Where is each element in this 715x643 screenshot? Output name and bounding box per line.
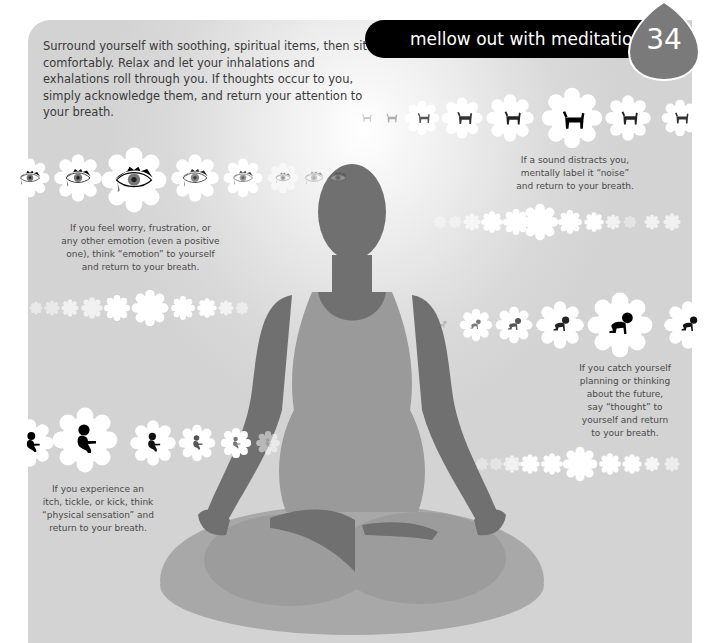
caption-thought: If you catch yourself planning or thinki… (570, 362, 680, 440)
page-title: mellow out with meditation (410, 29, 643, 49)
caption-emotion: If you feel worry, frustration, or any o… (58, 222, 223, 274)
caption-sensation: If you experience an itch, tickle, or ki… (38, 483, 158, 535)
caption-noise: If a sound distracts you, mentally label… (510, 154, 640, 193)
page-number: 34 (625, 20, 703, 60)
page-title-bar: mellow out with meditation (365, 20, 650, 58)
intro-text: Surround yourself with soothing, spiritu… (43, 38, 373, 121)
